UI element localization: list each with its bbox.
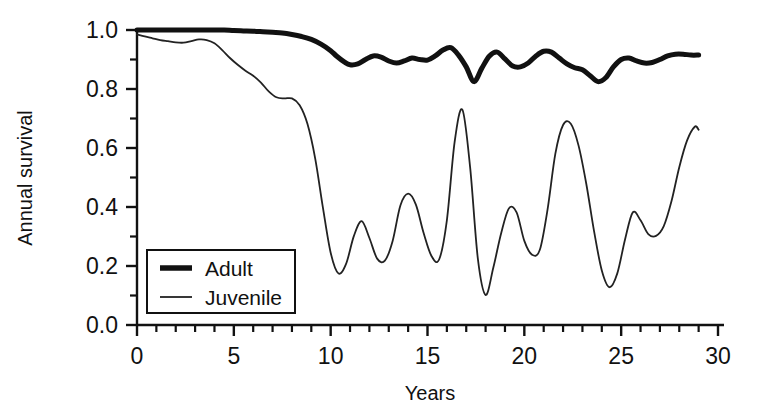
x-axis-tick-labels: 051015202530: [131, 343, 731, 369]
x-tick-label: 25: [608, 343, 634, 369]
y-tick-label: 0.0: [86, 312, 118, 338]
y-axis-title: Annual survival: [14, 110, 36, 246]
annual-survival-line-chart: 0.00.20.40.60.81.0 051015202530 Years An…: [0, 0, 765, 410]
y-tick-label: 1.0: [86, 17, 118, 43]
y-tick-label: 0.8: [86, 76, 118, 102]
x-axis-major-ticks: [137, 325, 718, 336]
x-tick-label: 30: [705, 343, 731, 369]
series-line-adult: [137, 30, 699, 82]
x-axis-title: Years: [405, 382, 455, 404]
legend-label-adult: Adult: [205, 257, 253, 280]
x-tick-label: 15: [415, 343, 441, 369]
y-tick-label: 0.6: [86, 135, 118, 161]
x-tick-label: 5: [227, 343, 240, 369]
y-tick-label: 0.4: [86, 194, 118, 220]
y-tick-label: 0.2: [86, 253, 118, 279]
legend-label-juvenile: Juvenile: [205, 286, 282, 309]
x-tick-label: 0: [131, 343, 144, 369]
y-axis-tick-labels: 0.00.20.40.60.81.0: [86, 17, 118, 338]
x-tick-label: 10: [318, 343, 344, 369]
x-tick-label: 20: [512, 343, 538, 369]
legend: Adult Juvenile: [147, 250, 295, 313]
chart-figure: 0.00.20.40.60.81.0 051015202530 Years An…: [0, 0, 765, 410]
